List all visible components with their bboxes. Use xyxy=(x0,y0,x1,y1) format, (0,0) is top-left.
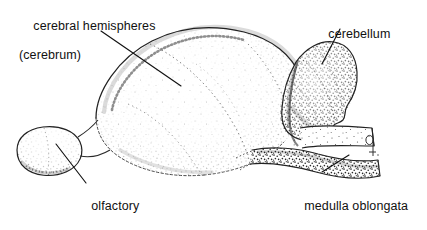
label-cerebrum-line1: cerebral hemispheres xyxy=(33,19,155,33)
label-olfactory-line1: olfactory xyxy=(91,199,139,213)
label-cerebrum-line2: (cerebrum) xyxy=(19,48,156,63)
brain-diagram-figure: cerebral hemispheres (cerebrum) cerebell… xyxy=(0,0,427,229)
label-cerebellum-line1: cerebellum xyxy=(328,27,390,41)
label-olfactory-line2: bulb xyxy=(77,228,139,230)
label-cerebral-hemispheres: cerebral hemispheres (cerebrum) xyxy=(19,4,156,91)
label-medulla-oblongata: medulla oblongata (brain stem) xyxy=(290,184,408,229)
label-medulla-line1: medulla oblongata xyxy=(304,199,408,213)
label-olfactory-bulb: olfactory bulb xyxy=(77,184,139,229)
label-cerebellum: cerebellum xyxy=(314,12,390,56)
label-medulla-line2: (brain stem) xyxy=(290,228,408,230)
